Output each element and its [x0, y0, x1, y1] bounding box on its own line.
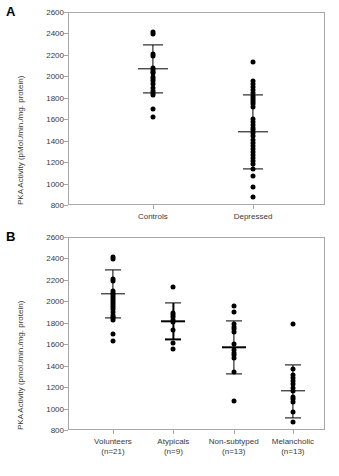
data-point [171, 346, 176, 351]
category-name: Melancholic [272, 437, 314, 446]
y-tick-label: 1000 [46, 179, 64, 188]
y-tick-mark [64, 280, 68, 281]
y-tick-label: 1000 [46, 404, 64, 413]
y-tick-mark [64, 33, 68, 34]
x-tick-mark [153, 205, 154, 209]
data-point [231, 398, 236, 403]
data-point [251, 166, 256, 171]
category-count: (n=21) [94, 447, 132, 457]
data-point [150, 31, 155, 36]
y-tick-mark [64, 184, 68, 185]
category-name: Atypicals [157, 437, 189, 446]
y-tick-mark [64, 55, 68, 56]
y-tick-mark [64, 430, 68, 431]
panel-b-y-axis-label: PKA Activity (pmol./min./mg. protein) [16, 301, 25, 430]
x-tick-label-depressed: Depressed [234, 212, 273, 222]
y-tick-label: 1600 [46, 340, 64, 349]
y-tick-mark [64, 205, 68, 206]
y-tick-mark [64, 98, 68, 99]
data-point [171, 341, 176, 346]
y-tick-mark [64, 409, 68, 410]
data-point [251, 194, 256, 199]
data-point [110, 256, 115, 261]
y-tick-mark [64, 366, 68, 367]
category-name: Depressed [234, 212, 273, 221]
y-tick-label: 2000 [46, 72, 64, 81]
y-tick-mark [64, 387, 68, 388]
y-tick-label: 2400 [46, 29, 64, 38]
panel-b: B PKA Activity (pmol./min./mg. protein) … [0, 225, 339, 476]
x-tick-label-non-subtyped: Non-subtyped(n=13) [209, 437, 259, 457]
data-point [171, 319, 176, 324]
category-name: Non-subtyped [209, 437, 259, 446]
y-tick-mark [64, 141, 68, 142]
panel-a-plot-area [68, 12, 325, 205]
panel-a: A PKA Activity (pMol./min./mg. protein) … [0, 0, 339, 225]
data-point [290, 366, 295, 371]
y-tick-mark [64, 258, 68, 259]
y-tick-mark [64, 162, 68, 163]
error-bar-sd-upper-cap [165, 302, 181, 303]
panel-b-plot-area [68, 237, 325, 430]
data-point [290, 409, 295, 414]
y-tick-label: 1200 [46, 158, 64, 167]
x-tick-mark [113, 430, 114, 434]
error-bar-sd-lower-cap [285, 417, 301, 418]
data-point [231, 329, 236, 334]
data-point [231, 356, 236, 361]
data-point [231, 310, 236, 315]
y-tick-label: 1400 [46, 361, 64, 370]
data-point [110, 331, 115, 336]
data-point [251, 173, 256, 178]
data-point [290, 322, 295, 327]
y-tick-mark [64, 119, 68, 120]
data-point [231, 304, 236, 309]
y-tick-label: 1800 [46, 93, 64, 102]
x-tick-mark [173, 430, 174, 434]
y-tick-label: 2200 [46, 275, 64, 284]
error-bar-sd-upper-cap [143, 45, 163, 46]
y-tick-label: 2600 [46, 8, 64, 17]
y-tick-label: 2600 [46, 233, 64, 242]
y-tick-mark [64, 344, 68, 345]
data-point [171, 327, 176, 332]
panel-a-letter: A [6, 5, 15, 18]
data-point [290, 419, 295, 424]
data-point [150, 53, 155, 58]
y-tick-label: 1600 [46, 115, 64, 124]
y-tick-label: 2000 [46, 297, 64, 306]
y-tick-mark [64, 76, 68, 77]
category-name: Volunteers [94, 437, 132, 446]
data-point [150, 106, 155, 111]
x-tick-label-controls: Controls [138, 212, 168, 222]
data-point [290, 388, 295, 393]
y-tick-label: 2400 [46, 254, 64, 263]
data-point [150, 93, 155, 98]
y-tick-label: 800 [51, 426, 64, 435]
category-count: (n=9) [157, 447, 189, 457]
data-point [290, 400, 295, 405]
x-tick-label-atypicals: Atypicals(n=9) [157, 437, 189, 457]
data-point [110, 318, 115, 323]
category-count: (n=13) [272, 447, 314, 457]
data-point [110, 339, 115, 344]
y-tick-label: 800 [51, 201, 64, 210]
y-tick-mark [64, 301, 68, 302]
error-bar-sd-upper-cap [285, 364, 301, 365]
category-name: Controls [138, 212, 168, 221]
x-tick-label-melancholic: Melancholic(n=13) [272, 437, 314, 457]
data-point [251, 104, 256, 109]
y-tick-mark [64, 12, 68, 13]
y-tick-label: 2200 [46, 50, 64, 59]
y-tick-mark [64, 237, 68, 238]
data-point [251, 184, 256, 189]
y-tick-label: 1800 [46, 318, 64, 327]
data-point [171, 284, 176, 289]
x-tick-label-volunteers: Volunteers(n=21) [94, 437, 132, 457]
y-tick-label: 1400 [46, 136, 64, 145]
data-point [110, 278, 115, 283]
category-count: (n=13) [209, 447, 259, 457]
x-tick-mark [293, 430, 294, 434]
panel-b-letter: B [6, 230, 15, 243]
panel-a-y-axis-label: PKA Activity (pMol./min./mg. protein) [16, 76, 25, 205]
